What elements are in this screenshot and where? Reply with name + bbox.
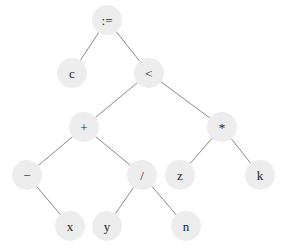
node-label: k (257, 168, 264, 183)
node-k: k (245, 160, 275, 190)
node-lt: < (134, 58, 164, 88)
edge-div-y (115, 187, 133, 213)
node-label: z (177, 168, 183, 183)
node-label: < (145, 66, 152, 81)
node-y: y (92, 211, 122, 241)
edge-minus-x (37, 186, 61, 214)
node-label: + (80, 120, 87, 135)
node-label: y (104, 219, 111, 234)
node-minus: − (12, 160, 42, 190)
node-label: − (23, 168, 30, 183)
node-x: x (55, 211, 85, 241)
edge-plus-minus (38, 137, 72, 166)
node-label: n (183, 219, 190, 234)
node-label: x (67, 219, 74, 234)
node-z: z (165, 160, 195, 190)
node-label: * (219, 120, 226, 135)
node-plus: + (69, 112, 99, 142)
expression-tree-diagram: :=c<+*−/zkxyn (0, 0, 281, 251)
edge-assign-c (80, 33, 98, 61)
node-label: c (69, 66, 75, 81)
nodes-group: :=c<+*−/zkxyn (12, 5, 275, 241)
node-div: / (127, 160, 157, 190)
edge-mul-k (231, 139, 250, 163)
edge-mul-z (190, 138, 212, 163)
edge-div-n (152, 186, 176, 214)
node-n: n (171, 211, 201, 241)
node-mul: * (207, 112, 237, 142)
node-label: / (140, 168, 144, 183)
edge-lt-plus (96, 83, 138, 118)
node-c: c (57, 58, 87, 88)
edge-lt-mul (161, 82, 210, 118)
edge-plus-div (96, 137, 131, 166)
edge-assign-lt (116, 32, 139, 61)
node-label: := (102, 13, 113, 28)
node-assign: := (92, 5, 122, 35)
